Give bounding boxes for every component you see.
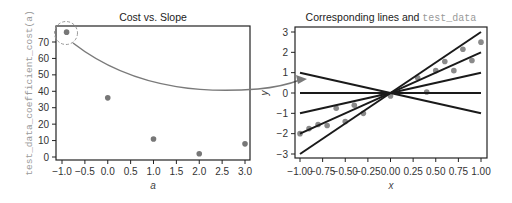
y-tick-label: 30 bbox=[38, 102, 50, 113]
y-tick-label: −1 bbox=[277, 108, 289, 119]
x-tick-label: 0.5 bbox=[124, 166, 138, 177]
right-x-axis-label: x bbox=[388, 180, 395, 191]
cost-vs-slope-chart: Cost vs. Slope −1.0−0.50.00.51.01.52.02.… bbox=[24, 10, 252, 191]
slope-lines bbox=[300, 32, 481, 154]
y-tick-label: 10 bbox=[38, 135, 50, 146]
x-tick-label: 0.50 bbox=[426, 166, 446, 177]
x-tick-label: 3.0 bbox=[238, 166, 252, 177]
x-tick-label: 0.00 bbox=[381, 166, 401, 177]
data-point bbox=[242, 141, 248, 147]
y-tick-label: 50 bbox=[38, 69, 50, 80]
left-x-axis-label: a bbox=[150, 180, 156, 191]
y-tick-label: 3 bbox=[282, 27, 288, 38]
x-tick-label: 0.0 bbox=[101, 166, 115, 177]
left-y-axis: 010203040506070 bbox=[38, 37, 56, 163]
figure: Cost vs. Slope −1.0−0.50.00.51.01.52.02.… bbox=[0, 0, 512, 203]
x-tick-label: 0.25 bbox=[403, 166, 423, 177]
x-tick-label: 1.0 bbox=[147, 166, 161, 177]
right-y-axis-label: y bbox=[259, 90, 270, 97]
x-tick-label: −0.5 bbox=[75, 166, 95, 177]
annotation-arrowhead-icon bbox=[296, 75, 307, 84]
y-tick-label: −3 bbox=[277, 149, 289, 160]
y-tick-label: −2 bbox=[277, 128, 289, 139]
data-point bbox=[64, 29, 70, 35]
test-data-point bbox=[478, 39, 484, 45]
data-point bbox=[151, 136, 157, 142]
corresponding-lines-chart: Corresponding lines and test_data −1.00−… bbox=[259, 11, 491, 191]
x-tick-label: 1.00 bbox=[471, 166, 491, 177]
x-tick-label: 1.5 bbox=[169, 166, 183, 177]
data-point bbox=[105, 95, 111, 101]
x-tick-label: 2.0 bbox=[192, 166, 206, 177]
annotation-arrow bbox=[73, 43, 300, 90]
y-tick-label: 20 bbox=[38, 119, 50, 130]
test-data-point bbox=[324, 123, 330, 129]
data-point bbox=[196, 151, 202, 157]
y-tick-label: 70 bbox=[38, 37, 50, 48]
y-tick-label: 1 bbox=[282, 67, 288, 78]
x-tick-label: 0.75 bbox=[449, 166, 469, 177]
right-chart-title: Corresponding lines and test_data bbox=[306, 11, 477, 24]
test-data-point bbox=[460, 46, 466, 52]
right-y-axis: −3−2−10123 bbox=[277, 27, 295, 160]
test-data-point bbox=[442, 59, 448, 65]
left-chart-title: Cost vs. Slope bbox=[119, 11, 187, 23]
test-data-point bbox=[352, 102, 358, 108]
y-tick-label: 0 bbox=[282, 88, 288, 99]
x-tick-label: −1.0 bbox=[52, 166, 72, 177]
x-tick-label: 2.5 bbox=[215, 166, 229, 177]
y-tick-label: 40 bbox=[38, 86, 50, 97]
test-data-point bbox=[451, 68, 457, 74]
cost-points bbox=[64, 29, 248, 156]
y-tick-label: 60 bbox=[38, 53, 50, 64]
y-tick-label: 0 bbox=[43, 152, 49, 163]
y-tick-label: 2 bbox=[282, 47, 288, 58]
test-data-point bbox=[469, 58, 475, 64]
left-x-axis: −1.0−0.50.00.51.01.52.02.53.0 bbox=[52, 160, 252, 177]
right-x-axis: −1.00−0.75−0.50−0.250.000.250.500.751.00 bbox=[287, 158, 491, 177]
x-tick-label: −0.25 bbox=[355, 166, 381, 177]
left-y-axis-label: test_data_coefficient_cost(a) bbox=[24, 10, 35, 175]
